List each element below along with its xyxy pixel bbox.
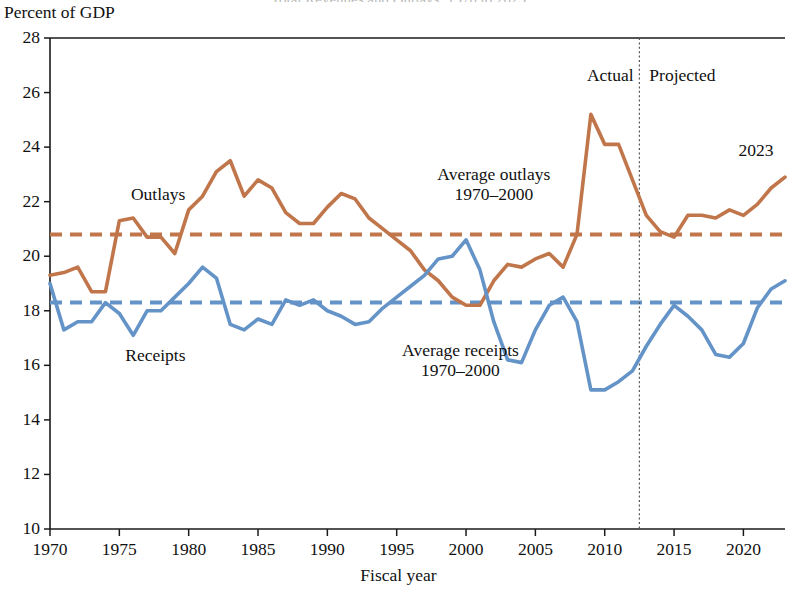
average-outlays-annotation-line2: 1970–2000: [437, 185, 550, 205]
x-tick-1995: 1995: [367, 539, 427, 560]
average-outlays-annotation: Average outlays 1970–2000: [437, 166, 550, 205]
y-tick-14: 14: [6, 409, 40, 430]
x-tick-2005: 2005: [505, 539, 565, 560]
x-tick-1970: 1970: [20, 539, 80, 560]
x-tick-1990: 1990: [297, 539, 357, 560]
x-tick-2020: 2020: [713, 539, 773, 560]
y-tick-22: 22: [6, 191, 40, 212]
y-tick-16: 16: [6, 354, 40, 375]
projected-region-label: Projected: [649, 66, 715, 86]
x-tick-2000: 2000: [436, 539, 496, 560]
y-tick-24: 24: [6, 136, 40, 157]
x-tick-1980: 1980: [159, 539, 219, 560]
average-reference-lines: [50, 234, 785, 302]
y-tick-20: 20: [6, 245, 40, 266]
chart-axes: [44, 38, 785, 536]
y-tick-26: 26: [6, 82, 40, 103]
plot-area: [0, 0, 797, 597]
series-label-outlays: Outlays: [131, 185, 185, 205]
x-tick-2015: 2015: [644, 539, 704, 560]
actual-region-label: Actual: [587, 66, 634, 86]
average-receipts-annotation: Average receipts 1970–2000: [402, 342, 519, 381]
series-label-receipts: Receipts: [125, 346, 185, 366]
average-receipts-annotation-line1: Average receipts: [402, 342, 519, 362]
chart-figure: Total Revenues and Outlays, 1970 to 2023…: [0, 0, 797, 597]
average-receipts-annotation-line2: 1970–2000: [402, 361, 519, 381]
x-axis-title: Fiscal year: [0, 565, 797, 586]
y-tick-12: 12: [6, 463, 40, 484]
average-outlays-annotation-line1: Average outlays: [437, 166, 550, 186]
x-tick-2010: 2010: [575, 539, 635, 560]
x-tick-1975: 1975: [89, 539, 149, 560]
y-tick-10: 10: [6, 518, 40, 539]
y-tick-28: 28: [6, 27, 40, 48]
end-year-label: 2023: [738, 141, 773, 161]
x-tick-1985: 1985: [228, 539, 288, 560]
y-tick-18: 18: [6, 300, 40, 321]
